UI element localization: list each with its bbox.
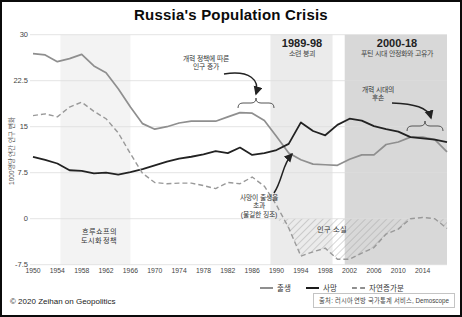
y-axis-label: 1000명당 연간 인구 변화: [6, 91, 16, 211]
legend-label-natural-increase: 자연증가분: [369, 282, 404, 293]
legend: 출생 사망 자연증가분: [260, 282, 404, 293]
source-text: 출처: 러시아 연방 국가통계 서비스, Demoscope: [313, 293, 455, 308]
x-tick-1974: 1974: [167, 267, 191, 274]
y-tick-15: 15: [2, 122, 28, 131]
x-tick-1950: 1950: [21, 267, 45, 274]
natural-increase-line-swatch-icon: [352, 287, 365, 289]
x-tick-2002: 2002: [338, 267, 362, 274]
band-label-putin-era: 2000-18 푸틴 시대 안정화와 고유가: [350, 37, 444, 59]
annotation-reform-growth: 개혁 정책에 따른 인구 증가: [170, 55, 242, 72]
x-tick-1962: 1962: [94, 267, 118, 274]
legend-label-births: 출생: [277, 282, 291, 293]
x-tick-1986: 1986: [240, 267, 264, 274]
legend-item-births: 출생: [260, 282, 291, 293]
band-subtitle-soviet-collapse: 소련 붕괴: [270, 50, 334, 59]
x-tick-1982: 1982: [216, 267, 240, 274]
legend-item-deaths: 사망: [306, 282, 337, 293]
annotation-reform-descendants: 개혁 시대의 후손: [346, 86, 410, 103]
y-tick-0: 0: [2, 214, 28, 223]
band-title-1989-98: 1989-98: [270, 37, 334, 49]
chart-frame: Russia's Population Crisis 1000명당 연간 인구 …: [0, 0, 462, 317]
x-tick-1990: 1990: [265, 267, 289, 274]
x-tick-1978: 1978: [191, 267, 215, 274]
legend-label-deaths: 사망: [323, 282, 337, 293]
y-tick-22.5: 22.5: [2, 76, 28, 85]
band-title-2000-18: 2000-18: [350, 37, 444, 49]
x-tick-1966: 1966: [118, 267, 142, 274]
band-subtitle-putin-era: 푸틴 시대 안정화와 고유가: [358, 50, 436, 59]
annotation-population-loss: 인구 소실: [302, 225, 362, 234]
x-tick-1998: 1998: [313, 267, 337, 274]
x-tick-2014: 2014: [411, 267, 435, 274]
annotation-deaths-exceed-births: 사망이 출생을 초과 (불길한 징조): [224, 194, 294, 219]
annotation-khrushchev-urbanization: 흐루쇼프의 도시화 정책: [60, 227, 138, 245]
x-tick-1958: 1958: [70, 267, 94, 274]
x-tick-1994: 1994: [289, 267, 313, 274]
x-tick-2006: 2006: [362, 267, 386, 274]
x-tick-1970: 1970: [143, 267, 167, 274]
births-line-swatch-icon: [260, 287, 273, 289]
y-tick-7.5: 7.5: [2, 168, 28, 177]
y-tick-30: 30: [2, 30, 28, 39]
x-tick-1954: 1954: [45, 267, 69, 274]
legend-item-natural-increase: 자연증가분: [352, 282, 404, 293]
band-label-soviet-collapse: 1989-98 소련 붕괴: [270, 37, 334, 59]
x-tick-2010: 2010: [386, 267, 410, 274]
deaths-line-swatch-icon: [306, 287, 319, 289]
copyright-text: © 2020 Zeihan on Geopolitics: [10, 297, 116, 306]
